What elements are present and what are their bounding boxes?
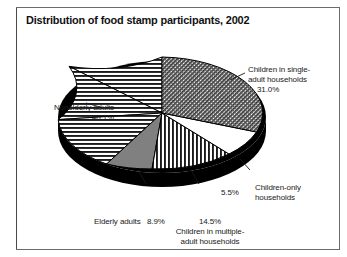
label-children-only: 5.5% Children-only households xyxy=(255,183,301,203)
label-line-1: Children-only xyxy=(255,183,301,193)
label-value: 31.0% xyxy=(248,85,310,95)
label-value: 14.5% xyxy=(156,217,264,227)
pie-svg xyxy=(16,7,340,250)
pie-chart-plot: Children in single- adult households 31.… xyxy=(16,7,340,250)
label-value: 5.5% xyxy=(221,188,239,198)
label-nonelderly-adults: Nonelderly adults 40.1% xyxy=(34,103,114,123)
label-line-1: Children in single- xyxy=(248,65,310,75)
label-children-single-adult: Children in single- adult households 31.… xyxy=(248,65,310,95)
label-line-1: Elderly adults xyxy=(94,217,141,226)
label-line-1: Children in multiple- xyxy=(156,227,264,237)
label-value: 40.1% xyxy=(34,113,114,123)
label-children-multiple-adult: 14.5% Children in multiple- adult househ… xyxy=(156,217,264,247)
label-line-1: Nonelderly adults xyxy=(34,103,114,113)
label-line-2: adult households xyxy=(156,237,264,247)
label-line-2: adult households xyxy=(248,75,310,85)
label-elderly-adults: Elderly adults 8.9% xyxy=(94,217,165,227)
label-line-2: households xyxy=(255,193,301,203)
screenshot-root: Distribution of food stamp participants,… xyxy=(0,0,347,257)
